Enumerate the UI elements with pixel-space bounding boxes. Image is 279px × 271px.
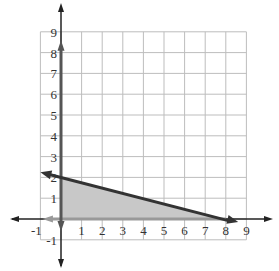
arrow-up-icon bbox=[58, 3, 64, 12]
graph: -1123456789-1123456789 bbox=[0, 0, 279, 271]
arrow-right-icon bbox=[264, 216, 273, 222]
x-tick-label: 3 bbox=[120, 223, 127, 238]
x-tick-label: 5 bbox=[161, 223, 168, 238]
arrow-down-icon bbox=[58, 259, 64, 268]
arrow-up-icon bbox=[58, 40, 65, 51]
x-tick-label: 9 bbox=[243, 223, 250, 238]
y-tick-label: 5 bbox=[51, 108, 58, 123]
y-tick-label: 9 bbox=[51, 25, 58, 40]
arrow-down-icon bbox=[58, 221, 65, 232]
arrow-left-icon bbox=[10, 216, 19, 222]
y-tick-label: 1 bbox=[51, 191, 58, 206]
arrow-left-icon bbox=[42, 216, 53, 223]
x-tick-label: 6 bbox=[181, 223, 188, 238]
y-tick-label: 2 bbox=[51, 170, 58, 185]
y-tick-label: -1 bbox=[46, 233, 57, 248]
x-tick-label: 4 bbox=[140, 223, 147, 238]
x-tick-label: 7 bbox=[202, 223, 209, 238]
x-tick-label: 8 bbox=[223, 223, 230, 238]
y-tick-label: 7 bbox=[51, 66, 58, 81]
y-tick-label: 4 bbox=[51, 129, 58, 144]
y-tick-label: 3 bbox=[51, 150, 58, 165]
x-tick-label: -1 bbox=[31, 223, 42, 238]
y-tick-label: 8 bbox=[51, 46, 58, 61]
x-tick-label: 1 bbox=[78, 223, 85, 238]
x-tick-label: 2 bbox=[99, 223, 106, 238]
y-tick-label: 6 bbox=[51, 87, 58, 102]
